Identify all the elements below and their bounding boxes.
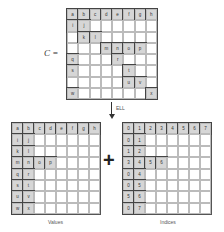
matrix-cell	[67, 169, 78, 180]
matrix-cell	[135, 65, 146, 76]
matrix-cell: a	[67, 9, 78, 20]
matrix-cell: f	[67, 123, 78, 134]
matrix-cell	[78, 88, 89, 99]
matrix-cell: e	[112, 9, 123, 20]
matrix-cell	[56, 180, 67, 191]
matrix-cell: 0	[123, 180, 134, 191]
matrix-cell: 0	[123, 123, 134, 134]
matrix-cell	[67, 77, 78, 88]
matrix-cell	[200, 169, 211, 180]
matrix-cell	[45, 203, 56, 214]
matrix-cell: u	[123, 77, 134, 88]
matrix-cell	[90, 43, 101, 54]
matrix-cell: m	[101, 43, 112, 54]
matrix-cell	[34, 134, 45, 145]
matrix-cell: p	[45, 157, 56, 168]
matrix-cell	[89, 157, 100, 168]
matrix-cell	[56, 157, 67, 168]
matrix-cell	[146, 54, 157, 65]
matrix-cell	[89, 203, 100, 214]
plus-operator: +	[103, 150, 115, 170]
matrix-cell	[56, 191, 67, 202]
matrix-cell	[200, 157, 211, 168]
matrix-cell	[145, 169, 156, 180]
matrix-cell	[178, 169, 189, 180]
matrix-cell	[89, 134, 100, 145]
matrix-cell: j	[23, 134, 34, 145]
matrix-cell	[156, 146, 167, 157]
matrix-cell	[45, 180, 56, 191]
matrix-cell: v	[135, 77, 146, 88]
matrix-cell: o	[34, 157, 45, 168]
matrix-cell	[146, 43, 157, 54]
matrix-cell: p	[135, 43, 146, 54]
matrix-cell: j	[78, 20, 89, 31]
matrix-cell: 0	[123, 134, 134, 145]
matrix-cell: e	[56, 123, 67, 134]
matrix-cell	[167, 169, 178, 180]
matrix-cell	[89, 146, 100, 157]
matrix-cell: 3	[123, 157, 134, 168]
matrix-cell: b	[78, 9, 89, 20]
matrix-cell	[167, 191, 178, 202]
matrix-cell	[67, 180, 78, 191]
matrix-cell: o	[123, 43, 134, 54]
matrix-cell	[123, 32, 134, 43]
matrix-cell: 1	[134, 123, 145, 134]
matrix-cell: 2	[134, 146, 145, 157]
matrix-cell	[78, 180, 89, 191]
matrix-cell	[56, 146, 67, 157]
matrix-cell	[112, 32, 123, 43]
matrix-cell	[101, 77, 112, 88]
matrix-cell: u	[12, 191, 23, 202]
indices-caption: Indices	[160, 219, 176, 225]
matrix-cell: a	[12, 123, 23, 134]
ell-label: ELL	[116, 105, 125, 111]
matrix-cell: q	[12, 169, 23, 180]
matrix-cell	[189, 146, 200, 157]
matrix-cell	[89, 169, 100, 180]
matrix-cell	[90, 88, 101, 99]
matrix-cell: n	[23, 157, 34, 168]
matrix-cell	[67, 146, 78, 157]
matrix-cell	[146, 32, 157, 43]
matrix-cell	[45, 134, 56, 145]
matrix-cell	[189, 180, 200, 191]
matrix-cell: w	[12, 203, 23, 214]
matrix-cell	[78, 77, 89, 88]
matrix-cell	[78, 157, 89, 168]
matrix-cell: 0	[123, 169, 134, 180]
matrix-cell	[145, 146, 156, 157]
matrix-cell: 6	[189, 123, 200, 134]
matrix-cell	[167, 134, 178, 145]
matrix-cell	[34, 146, 45, 157]
matrix-cell	[67, 32, 78, 43]
matrix-cell: 4	[134, 169, 145, 180]
matrix-cell	[145, 134, 156, 145]
matrix-cell	[78, 191, 89, 202]
matrix-cell	[112, 65, 123, 76]
sparse-matrix-c: abcdefghijklmnopqrstuvwx	[66, 8, 158, 100]
matrix-cell: b	[23, 123, 34, 134]
matrix-cell: d	[45, 123, 56, 134]
matrix-cell	[145, 191, 156, 202]
matrix-cell: r	[23, 169, 34, 180]
matrix-cell: q	[67, 54, 78, 65]
matrix-cell	[178, 180, 189, 191]
matrix-cell	[89, 180, 100, 191]
matrix-cell: x	[146, 88, 157, 99]
matrix-cell	[90, 54, 101, 65]
matrix-cell	[34, 203, 45, 214]
matrix-cell	[123, 88, 134, 99]
matrix-cell	[156, 203, 167, 214]
matrix-cell	[189, 169, 200, 180]
matrix-cell	[135, 32, 146, 43]
values-caption: Values	[48, 219, 63, 225]
matrix-cell: c	[90, 9, 101, 20]
values-matrix: abcdefghijklmnopqrstuvwx	[11, 122, 101, 215]
matrix-cell: r	[112, 54, 123, 65]
matrix-cell	[101, 65, 112, 76]
matrix-cell: s	[12, 180, 23, 191]
matrix-cell	[189, 134, 200, 145]
matrix-cell: 2	[145, 123, 156, 134]
